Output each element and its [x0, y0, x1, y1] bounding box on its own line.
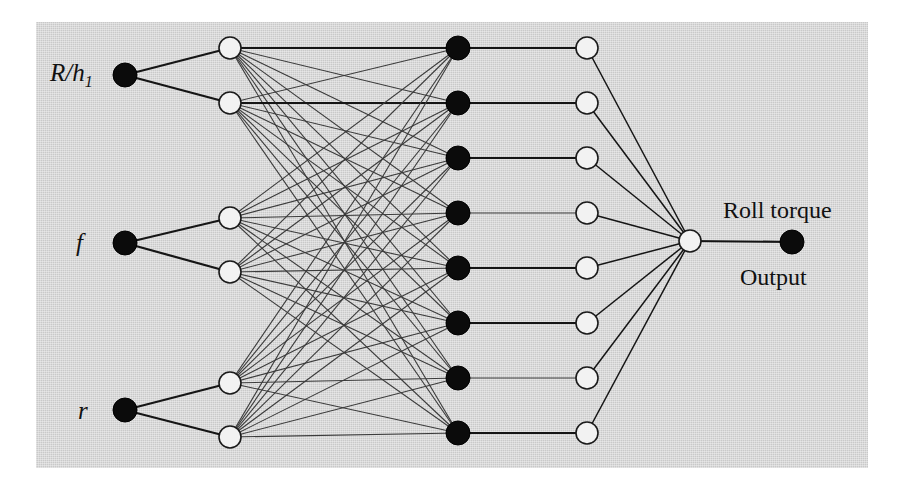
node-sum-1 — [679, 230, 701, 252]
edge — [230, 103, 458, 213]
node-h3-7 — [576, 367, 598, 389]
edge — [125, 75, 230, 103]
input-label-3: r — [78, 398, 88, 423]
node-h2-8 — [446, 421, 470, 445]
node-h1-5 — [219, 372, 241, 394]
node-h3-3 — [576, 147, 598, 169]
output-label-title: Roll torque — [723, 198, 832, 222]
node-h2-3 — [446, 146, 470, 170]
edge — [587, 158, 690, 241]
node-h1-6 — [219, 426, 241, 448]
node-in-3 — [113, 398, 137, 422]
figure-root: R/h1 f r Roll torque Output — [0, 0, 898, 493]
node-h2-6 — [446, 311, 470, 335]
node-h2-1 — [446, 36, 470, 60]
edge — [230, 268, 458, 437]
edge — [125, 218, 230, 243]
input-label-1: R/h1 — [50, 60, 93, 90]
edge — [587, 48, 690, 241]
edge — [230, 433, 458, 437]
edge — [690, 241, 792, 242]
edge — [587, 241, 690, 378]
node-h3-6 — [576, 312, 598, 334]
node-h1-2 — [219, 92, 241, 114]
node-h2-2 — [446, 91, 470, 115]
node-h3-5 — [576, 257, 598, 279]
edge — [125, 383, 230, 410]
network-graph — [0, 0, 898, 493]
edge — [230, 103, 458, 323]
node-in-1 — [113, 63, 137, 87]
edge — [587, 241, 690, 268]
edge — [587, 213, 690, 241]
edge — [125, 243, 230, 272]
node-h2-7 — [446, 366, 470, 390]
input-label-1-var: h — [72, 59, 85, 86]
edge — [230, 103, 458, 158]
edge — [125, 410, 230, 437]
node-h1-1 — [219, 37, 241, 59]
output-label-caption: Output — [740, 265, 807, 289]
edge — [125, 48, 230, 75]
node-h3-1 — [576, 37, 598, 59]
edge — [230, 158, 458, 437]
edge — [587, 103, 690, 241]
node-h3-8 — [576, 422, 598, 444]
node-out-1 — [780, 230, 804, 254]
node-in-2 — [113, 231, 137, 255]
node-h3-2 — [576, 92, 598, 114]
input-label-2: f — [76, 230, 83, 255]
input-label-1-main: R/ — [50, 59, 72, 86]
edge — [230, 323, 458, 437]
node-h2-5 — [446, 256, 470, 280]
input-label-1-subscript: 1 — [85, 73, 93, 90]
edge — [587, 241, 690, 433]
node-h2-4 — [446, 201, 470, 225]
node-h3-4 — [576, 202, 598, 224]
node-h1-3 — [219, 207, 241, 229]
node-h1-4 — [219, 261, 241, 283]
